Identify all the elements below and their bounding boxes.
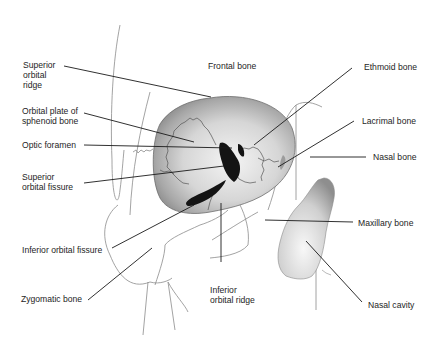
label-inferior-orbital-ridge: Inferior orbital ridge xyxy=(210,285,255,305)
orbit-diagram: Superior orbital ridge Frontal bone Ethm… xyxy=(0,0,442,350)
label-zygomatic-bone: Zygomatic bone xyxy=(21,294,82,304)
label-inferior-orbital-fissure: Inferior orbital fissure xyxy=(22,245,102,255)
leader-inferior-orbital-fissure xyxy=(112,205,194,248)
label-superior-orbital-ridge: Superior orbital ridge xyxy=(23,60,55,90)
label-frontal-bone: Frontal bone xyxy=(208,61,256,71)
nasal-cavity-shape xyxy=(278,178,335,279)
zygomatic-suture xyxy=(133,149,153,153)
leader-zygomatic xyxy=(88,248,152,300)
label-optic-foramen: Optic foramen xyxy=(22,140,76,150)
label-nasal-cavity: Nasal cavity xyxy=(368,300,414,310)
label-ethmoid-bone: Ethmoid bone xyxy=(364,62,417,72)
label-maxillary-bone: Maxillary bone xyxy=(358,218,413,228)
label-nasal-bone: Nasal bone xyxy=(373,152,416,162)
label-superior-orbital-fissure: Superior orbital fissure xyxy=(22,172,73,192)
leader-superior-orbital-ridge xyxy=(64,66,211,97)
label-orbital-plate-sphenoid: Orbital plate of sphenoid bone xyxy=(22,106,78,126)
label-lacrimal-bone: Lacrimal bone xyxy=(362,116,416,126)
